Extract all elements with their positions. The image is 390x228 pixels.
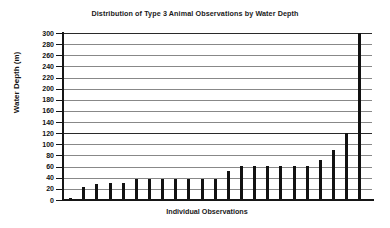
gridline [62,144,372,145]
gridline [62,111,372,112]
plot-area [62,33,372,200]
y-axis-tick [56,144,62,145]
y-axis-tick-label: 140 [28,119,54,126]
y-axis-tick [56,167,62,168]
bar [187,179,190,200]
gridline [62,133,372,134]
y-axis-tick-label: 240 [28,63,54,70]
bar [306,166,309,200]
y-axis-tick-label: 80 [28,152,54,159]
y-axis-tick-label: 40 [28,174,54,181]
bar [109,183,112,200]
y-axis-tick [56,33,62,34]
gridline [62,178,372,179]
chart-figure: Distribution of Type 3 Animal Observatio… [0,0,390,228]
y-axis-tick [56,100,62,101]
bar [227,171,230,201]
bar [279,166,282,200]
gridline [62,122,372,123]
y-axis-tick-label: 260 [28,52,54,59]
y-axis-tick-label: 180 [28,96,54,103]
y-axis-tick-label: 60 [28,163,54,170]
y-axis-tick [56,200,62,201]
bar [135,179,138,200]
gridline [62,66,372,67]
gridline [62,100,372,101]
bar [201,179,204,200]
gridline [62,167,372,168]
bar [293,166,296,200]
y-axis-tick [56,178,62,179]
x-axis-line [62,199,374,201]
y-axis-tick [56,66,62,67]
y-axis-tick [56,122,62,123]
y-axis-tick-label: 100 [28,141,54,148]
y-axis-tick-label: 280 [28,41,54,48]
bar [332,150,335,200]
bar [148,179,151,200]
y-axis-tick [56,133,62,134]
bar [266,166,269,200]
bar [240,166,243,200]
bar [253,166,256,200]
gridline [62,155,372,156]
gridline [62,89,372,90]
bar [319,160,322,200]
y-axis-tick [56,189,62,190]
bar [214,179,217,200]
bar [358,33,361,200]
bar [161,179,164,200]
y-axis-tick [56,155,62,156]
bar [174,179,177,200]
x-axis-title: Individual Observations [62,207,352,216]
y-axis-tick-label: 20 [28,185,54,192]
gridline [62,44,372,45]
bar [82,187,85,200]
y-axis-tick-label: 0 [28,197,54,204]
bar [345,133,348,200]
y-axis-tick [56,78,62,79]
y-axis-tick-labels: 3002802602402202001801601401201008060402… [26,0,54,228]
y-axis-tick-label: 200 [28,85,54,92]
gridline [62,55,372,56]
y-axis-tick [56,111,62,112]
bar [122,183,125,200]
y-axis-tick-label: 220 [28,74,54,81]
y-axis-tick [56,55,62,56]
chart-title: Distribution of Type 3 Animal Observatio… [0,9,390,18]
gridline [62,78,372,79]
y-axis-tick-label: 300 [28,30,54,37]
y-axis-tick-label: 160 [28,107,54,114]
y-axis-tick [56,44,62,45]
y-axis-tick [56,89,62,90]
y-axis-line [62,32,64,201]
gridline [62,33,372,34]
y-axis-title: Water Depth (m) [12,23,21,143]
bar [95,184,98,200]
y-axis-tick-label: 120 [28,130,54,137]
